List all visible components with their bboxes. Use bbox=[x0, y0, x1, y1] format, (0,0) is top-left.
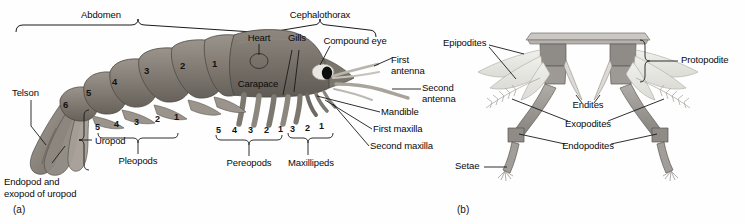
pereopod-number-3: 3 bbox=[248, 125, 253, 135]
maxillipeds-bracket bbox=[288, 133, 333, 155]
first-antenna-label-line2: antenna bbox=[391, 66, 425, 77]
second-antenna-label-line1: Second bbox=[422, 83, 454, 94]
abdomen-segment-number-2: 2 bbox=[180, 60, 185, 71]
diagram-artwork bbox=[0, 0, 745, 224]
carapace-label: Carapace bbox=[238, 79, 278, 90]
endopodites-leader-right bbox=[611, 134, 657, 144]
maxillipeds-label: Maxillipeds bbox=[288, 158, 334, 169]
second-maxilla-label: Second maxilla bbox=[370, 141, 433, 152]
body-wall-shape bbox=[526, 33, 650, 44]
compound-eye-shape bbox=[312, 64, 334, 80]
second-maxilla-leader bbox=[333, 104, 369, 146]
pereopod-number-1: 1 bbox=[278, 124, 283, 134]
endopodites-leader-left bbox=[519, 134, 565, 144]
pereopod-number-2: 2 bbox=[264, 125, 269, 135]
abdomen-segment-number-6: 6 bbox=[63, 99, 68, 110]
panel-b-id: (b) bbox=[457, 204, 469, 215]
pleopod-number-2: 2 bbox=[155, 114, 160, 124]
compound-eye-label: Compound eye bbox=[323, 36, 386, 47]
endopod-exopod-label-line1: Endopod and bbox=[4, 177, 59, 188]
uropod-label: Uropod bbox=[95, 136, 126, 147]
cephalothorax-label: Cephalothorax bbox=[290, 10, 351, 21]
pereopods-bracket bbox=[216, 135, 282, 156]
mandible-label: Mandible bbox=[381, 107, 419, 118]
abdomen-segment-number-3: 3 bbox=[144, 65, 149, 76]
maxilliped-number-2: 2 bbox=[305, 123, 310, 133]
second-antenna-label-line2: antenna bbox=[422, 94, 456, 105]
abdomen-label: Abdomen bbox=[81, 10, 121, 21]
first-antenna-leader bbox=[374, 58, 392, 66]
abdomen-segment-number-4: 4 bbox=[112, 76, 117, 87]
left-appendage bbox=[478, 44, 582, 181]
pleopod-number-1: 1 bbox=[174, 112, 179, 122]
maxilliped-number-3: 3 bbox=[290, 124, 295, 134]
maxilliped-number-1: 1 bbox=[319, 121, 324, 131]
first-antenna-label-line1: First bbox=[391, 55, 409, 66]
protopodite-label: Protopodite bbox=[681, 55, 729, 66]
telson-label: Telson bbox=[12, 88, 39, 99]
gills-label: Gills bbox=[288, 33, 306, 44]
pleopods-label: Pleopods bbox=[119, 156, 158, 167]
pleopod-number-5: 5 bbox=[95, 122, 100, 132]
pleopod-number-4: 4 bbox=[114, 119, 119, 129]
heart-label: Heart bbox=[248, 33, 271, 44]
first-maxilla-label: First maxilla bbox=[373, 124, 422, 135]
setae-label: Setae bbox=[455, 161, 479, 172]
endites-label: Endites bbox=[573, 100, 604, 111]
abdomen-segment-number-1: 1 bbox=[212, 58, 217, 69]
endopod-exopod-label-line2: exopod of uropod bbox=[4, 189, 76, 200]
pereopods-label: Pereopods bbox=[226, 158, 271, 169]
panel-a-id: (a) bbox=[13, 204, 25, 215]
pleopod-number-3: 3 bbox=[134, 117, 139, 127]
pereopod-number-5: 5 bbox=[216, 125, 221, 135]
pereopod-number-4: 4 bbox=[232, 125, 237, 135]
abdomen-segment-number-5: 5 bbox=[86, 87, 91, 98]
epipodites-label: Epipodites bbox=[443, 38, 486, 49]
figure-canvas: Abdomen Cephalothorax Telson Endopod and… bbox=[0, 0, 745, 224]
pereopod-shapes bbox=[239, 95, 300, 125]
exopodites-label: Exopodites bbox=[565, 119, 611, 130]
endopodites-label: Endopodites bbox=[562, 141, 614, 152]
